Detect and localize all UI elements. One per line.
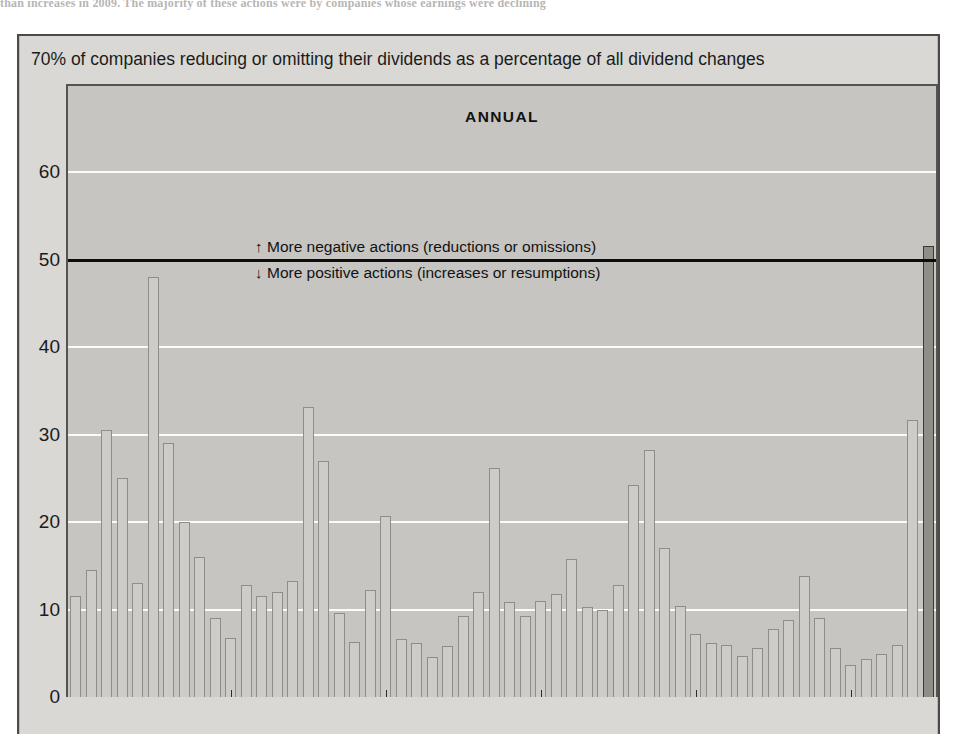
chart-title: ANNUAL: [68, 108, 936, 126]
bar: [706, 643, 717, 697]
bar: [675, 606, 686, 697]
y-tick-label-40: 40: [12, 337, 60, 356]
bar: [334, 613, 345, 697]
x-axis-tick: [231, 690, 232, 697]
bar: [225, 638, 236, 698]
annotation-more-negative-arrow-icon: ↑: [255, 238, 267, 255]
gridline-60: [68, 171, 936, 173]
annotation-more-positive: ↓More positive actions (increases or res…: [255, 264, 600, 282]
bar: [783, 620, 794, 697]
y-tick-label-10: 10: [12, 600, 60, 619]
y-tick-label-0: 0: [12, 687, 60, 706]
bar: [396, 639, 407, 697]
bar: [923, 246, 934, 697]
bar: [473, 592, 484, 697]
bar: [132, 583, 143, 697]
bar: [721, 645, 732, 698]
bar: [814, 618, 825, 697]
y-tick-label-60: 60: [12, 162, 60, 181]
bar: [489, 468, 500, 697]
bar: [551, 594, 562, 697]
x-axis-tick: [851, 690, 852, 697]
bar: [907, 420, 918, 697]
bar: [613, 585, 624, 697]
gridline-30: [68, 434, 936, 436]
bar: [287, 581, 298, 697]
bar: [799, 576, 810, 697]
bar: [644, 450, 655, 697]
bar: [768, 629, 779, 697]
x-axis-tick: [541, 690, 542, 697]
x-axis-tick: [386, 690, 387, 697]
x-axis-tick: [696, 690, 697, 697]
bar: [70, 596, 81, 697]
cut-off-top-text: than increases in 2009. The majority of …: [0, 0, 968, 10]
annotation-more-negative: ↑More negative actions (reductions or om…: [255, 238, 596, 256]
bar: [504, 602, 515, 697]
y-axis: 0102030405060: [8, 0, 60, 697]
reference-line-50: [68, 259, 936, 262]
bar: [380, 516, 391, 697]
bar: [86, 570, 97, 697]
bar: [830, 648, 841, 697]
y-tick-label-30: 30: [12, 425, 60, 444]
bar: [520, 616, 531, 697]
bar: [628, 485, 639, 697]
bar: [272, 592, 283, 697]
bar: [194, 557, 205, 697]
bar: [411, 643, 422, 697]
bar: [241, 585, 252, 697]
bar: [458, 616, 469, 697]
bar: [737, 656, 748, 697]
bar: [163, 443, 174, 697]
figure-caption: 70% of companies reducing or omitting th…: [31, 44, 921, 74]
bar: [566, 559, 577, 697]
annotation-more-positive-arrow-icon: ↓: [255, 264, 267, 281]
bar: [752, 648, 763, 697]
bar: [442, 646, 453, 697]
bar: [210, 618, 221, 697]
bar: [117, 478, 128, 697]
bar: [876, 654, 887, 697]
bar: [349, 642, 360, 697]
bar: [148, 277, 159, 697]
gridline-20: [68, 521, 936, 523]
bar: [659, 548, 670, 697]
bar: [101, 430, 112, 697]
bar: [179, 522, 190, 697]
gridline-40: [68, 346, 936, 348]
bar: [582, 607, 593, 697]
y-tick-label-50: 50: [12, 250, 60, 269]
bar: [535, 601, 546, 697]
bar: [861, 659, 872, 698]
bar: [303, 407, 314, 698]
bar: [318, 461, 329, 697]
bar: [365, 590, 376, 697]
y-tick-label-20: 20: [12, 512, 60, 531]
bar: [690, 634, 701, 697]
plot-area: [68, 86, 936, 697]
bar: [892, 645, 903, 698]
annotation-more-negative-label: More negative actions (reductions or omi…: [267, 238, 596, 255]
bar: [427, 657, 438, 697]
bar: [256, 596, 267, 697]
annotation-more-positive-label: More positive actions (increases or resu…: [267, 264, 600, 281]
bar: [597, 610, 608, 698]
